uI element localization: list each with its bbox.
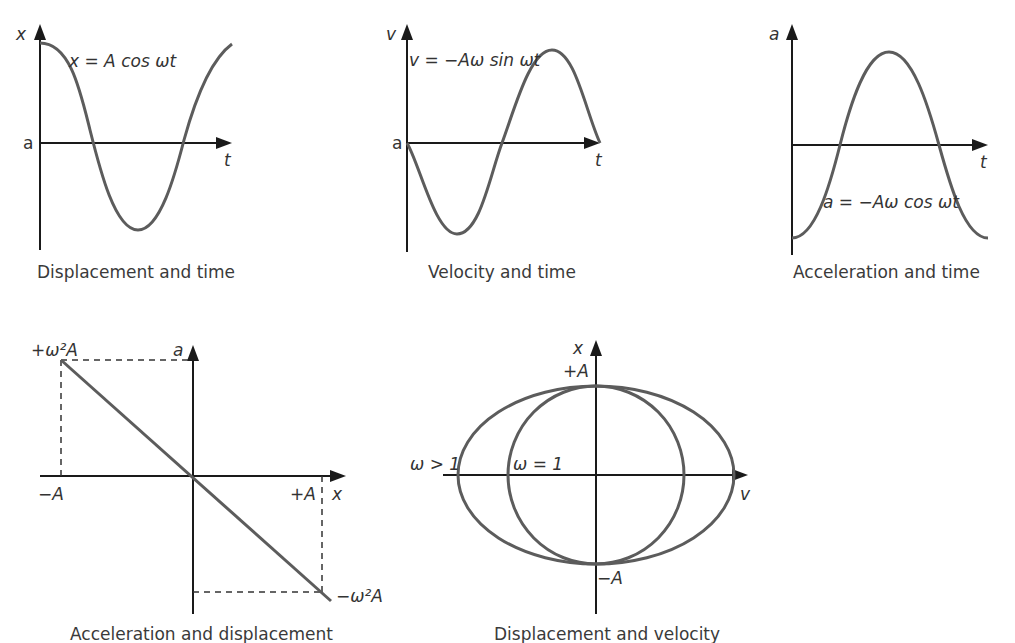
x-max-label: +A: [290, 484, 316, 504]
x-axis-arrow-icon: [972, 139, 988, 151]
origin-label: a: [23, 133, 33, 153]
y-axis-label: a: [173, 340, 183, 360]
y-axis-arrow-icon: [187, 345, 199, 361]
y-axis-arrow-icon: [590, 340, 602, 356]
equation-label: x = A cos ωt: [68, 51, 177, 71]
omega-equal-label: ω = 1: [513, 454, 563, 474]
y-axis-label: x: [15, 24, 27, 44]
y-axis-label: a: [769, 24, 779, 44]
y-min-label: −A: [597, 568, 623, 588]
linear-relation-line: [61, 360, 331, 601]
y-min-label: −ω²A: [336, 586, 383, 606]
x-axis-label: x: [331, 484, 343, 504]
graph-displacement-velocity: x +A −A v ω > 1 ω = 1 Displacement and v…: [410, 338, 751, 643]
graph-acceleration-time: a t a = −Aω cos ωt Acceleration and time: [769, 24, 988, 282]
graph-caption: Displacement and velocity: [494, 624, 720, 643]
x-axis-arrow-icon: [216, 137, 232, 149]
x-axis-label: t: [224, 150, 232, 170]
graph-acceleration-displacement: a +ω²A −ω²A −A +A x Acceleration and dis…: [31, 340, 383, 643]
omega-greater-label: ω > 1: [410, 454, 460, 474]
y-axis-label: x: [572, 338, 584, 358]
x-axis-label: t: [980, 152, 988, 172]
graph-displacement-time: x a t x = A cos ωt Displacement and time: [15, 24, 235, 282]
y-axis-arrow-icon: [401, 24, 413, 40]
y-max-label: +A: [563, 361, 589, 381]
x-min-label: −A: [38, 484, 64, 504]
y-axis-arrow-icon: [786, 24, 798, 40]
y-axis-label: v: [386, 24, 397, 44]
origin-label: a: [392, 133, 402, 153]
y-axis-arrow-icon: [34, 24, 46, 40]
equation-label: a = −Aω cos ωt: [823, 192, 960, 212]
y-max-label: +ω²A: [31, 340, 78, 360]
x-axis-label: v: [740, 484, 751, 504]
x-axis-arrow-icon: [330, 470, 346, 482]
equation-label: v = −Aω sin ωt: [409, 50, 542, 70]
graph-caption: Velocity and time: [428, 262, 576, 282]
graph-caption: Acceleration and displacement: [70, 624, 333, 643]
cosine-curve: [40, 43, 232, 230]
x-axis-label: t: [595, 150, 603, 170]
graph-caption: Displacement and time: [37, 262, 235, 282]
graph-caption: Acceleration and time: [793, 262, 980, 282]
graph-velocity-time: v a t v = −Aω sin ωt Velocity and time: [386, 24, 603, 282]
